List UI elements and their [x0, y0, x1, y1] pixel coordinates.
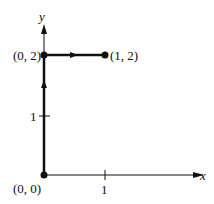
point-label-1-2: (1, 2) [110, 49, 138, 62]
x-axis-label: x [200, 169, 206, 182]
point-origin [41, 172, 48, 179]
path-diagram [0, 0, 214, 204]
direction-arrow-right-icon [70, 52, 78, 58]
point-label-0-2: (0, 2) [13, 49, 41, 62]
x-tick-label: 1 [101, 183, 108, 196]
point-1-2 [102, 52, 109, 59]
y-tick-label: 1 [30, 110, 37, 123]
y-axis-arrow-icon [41, 24, 47, 34]
point-label-origin: (0, 0) [13, 182, 41, 195]
direction-arrow-up-icon [41, 80, 47, 88]
point-0-2 [41, 52, 48, 59]
y-axis-label: y [39, 10, 45, 23]
